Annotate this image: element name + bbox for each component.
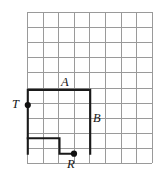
- path-lower-segment: [28, 138, 74, 153]
- grid-path-figure: T A B R: [0, 0, 161, 176]
- segment-label-b: B: [93, 112, 101, 125]
- segment-label-a: A: [61, 76, 69, 89]
- point-label-r: R: [67, 158, 75, 171]
- figure-canvas: [0, 0, 161, 176]
- point-label-t: T: [12, 98, 19, 111]
- vertex-dot-r: [71, 151, 77, 157]
- vertex-dot-t: [25, 102, 31, 108]
